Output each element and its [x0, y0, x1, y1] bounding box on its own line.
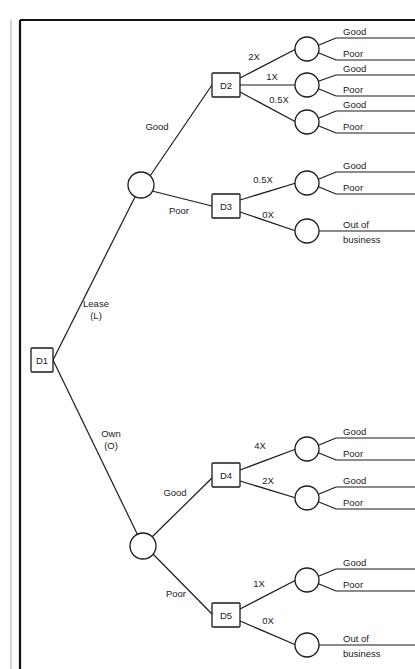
outcome-label-6-poor: Poor [343, 448, 363, 459]
page-frame [11, 20, 415, 669]
branch-d5-1x [240, 580, 296, 609]
branch-label-own-good: Good [163, 487, 186, 498]
branch-label-d2-05x: 0.5X [269, 94, 289, 105]
decision-node-d1-label: D1 [36, 355, 48, 366]
branch-label-own-poor: Poor [166, 588, 186, 599]
outcome-label-1-good: Good [343, 26, 366, 37]
branch-label-lease-poor: Poor [169, 205, 189, 216]
outcome-label-9-line1: Out of [343, 633, 369, 644]
branch-label-d4-2x: 2X [262, 475, 274, 486]
outcome-label-7-good: Good [343, 475, 366, 486]
decision-node-d2[interactable]: D2 [212, 73, 240, 97]
branch-label-d5-1x: 1X [253, 578, 265, 589]
decision-node-d4[interactable]: D4 [212, 463, 240, 487]
branch-label-d2-2x: 2X [248, 51, 260, 62]
outcome-label-5-line1: Out of [343, 219, 369, 230]
outcome-label-7-poor: Poor [343, 497, 363, 508]
outcome-line-4-good [319, 172, 415, 179]
outcome-label-6-good: Good [343, 426, 366, 437]
decision-node-d4-label: D4 [220, 470, 232, 481]
outcome-label-3-good: Good [343, 99, 366, 110]
decision-node-d3-label: D3 [220, 201, 232, 212]
decision-node-d5[interactable]: D5 [212, 603, 240, 627]
outcome-label-5-line2: business [343, 234, 381, 245]
branch-lease [53, 185, 141, 360]
branch-label-lease-good: Good [145, 121, 168, 132]
d3-branches [240, 183, 296, 231]
branch-label-own-line2: (O) [104, 440, 118, 451]
outcome-label-8-good: Good [343, 557, 366, 568]
root-branch-labels: Lease (L) Own (O) [83, 298, 121, 451]
outcome-lines [319, 38, 415, 645]
lease-chance-branches [150, 85, 212, 206]
branch-label-d2-1x: 1X [266, 71, 278, 82]
outcome-label-4-good: Good [343, 160, 366, 171]
chance-node-d3-05x[interactable] [295, 171, 319, 195]
root-branches [53, 185, 143, 546]
outcome-line-7-good [319, 487, 415, 494]
chance-node-d3-0x[interactable] [295, 219, 319, 243]
branch-d4-4x [240, 449, 296, 470]
branch-own [53, 360, 143, 546]
decision-node-d3[interactable]: D3 [212, 194, 240, 218]
outcome-line-3-good [319, 111, 415, 118]
chance-node-d5-1x[interactable] [295, 568, 319, 592]
d5-branches [240, 580, 296, 645]
outcome-line-8-poor [319, 584, 415, 591]
decision-node-d2-label: D2 [220, 80, 232, 91]
chance-node-d2-05x[interactable] [295, 110, 319, 134]
branch-label-d5-0x: 0X [262, 615, 274, 626]
decision-tree-page: D1 D2 D3 D4 D5 Lease (L) Own (O) Good Po [0, 0, 415, 669]
branch-own-poor [152, 553, 212, 614]
outcome-label-1-poor: Poor [343, 48, 363, 59]
branch-label-d3-0x: 0X [262, 209, 274, 220]
chance-node-d2-2x[interactable] [295, 37, 319, 61]
outcome-label-2-poor: Poor [343, 84, 363, 95]
d4-branches [240, 449, 296, 498]
outcome-label-2-good: Good [343, 63, 366, 74]
chance-node-d2-1x[interactable] [295, 73, 319, 97]
branch-label-lease-line2: (L) [90, 310, 102, 321]
outcome-line-8-good [319, 569, 415, 576]
chance-node-own[interactable] [130, 533, 156, 559]
outcome-label-9-line2: business [343, 648, 381, 659]
outcome-line-6-good [319, 438, 415, 445]
outcome-line-1-poor [319, 53, 415, 60]
branch-label-own-line1: Own [101, 428, 121, 439]
outcome-labels: Good Poor Good Poor Good Poor Good Poor … [343, 26, 381, 659]
outcome-line-2-good [319, 75, 415, 81]
branch-d3-05x [240, 183, 296, 200]
outcome-line-2-poor [319, 89, 415, 96]
branch-label-d3-05x: 0.5X [253, 174, 273, 185]
decision-branch-labels: 2X 1X 0.5X 0.5X 0X 4X 2X 1X 0X [248, 51, 289, 626]
chance-node-d5-0x[interactable] [295, 633, 319, 657]
branch-label-lease-line1: Lease [83, 298, 109, 309]
chance-node-d4-4x[interactable] [295, 437, 319, 461]
chance-node-lease[interactable] [128, 172, 154, 198]
outcome-line-3-poor [319, 126, 415, 133]
branch-label-d4-4x: 4X [254, 440, 266, 451]
outcome-line-7-poor [319, 502, 415, 509]
decision-node-d1[interactable]: D1 [31, 348, 53, 372]
outcome-label-4-poor: Poor [343, 182, 363, 193]
outcome-line-6-poor [319, 453, 415, 460]
chance-node-d4-2x[interactable] [295, 486, 319, 510]
outcome-label-3-poor: Poor [343, 121, 363, 132]
decision-tree-canvas: D1 D2 D3 D4 D5 Lease (L) Own (O) Good Po [0, 0, 415, 669]
outcome-line-1-good [319, 38, 415, 45]
decision-node-d5-label: D5 [220, 610, 232, 621]
outcome-label-8-poor: Poor [343, 579, 363, 590]
outcome-line-4-poor [319, 187, 415, 194]
branch-lease-poor [152, 191, 212, 206]
